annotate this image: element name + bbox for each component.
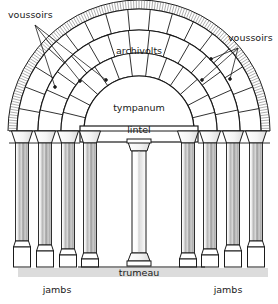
portal-diagram-canvas: voussoirs voussoirs archivolts tympanum … bbox=[0, 0, 278, 304]
portal-diagram: voussoirs voussoirs archivolts tympanum … bbox=[0, 0, 278, 304]
label-voussoirs-left: voussoirs bbox=[8, 9, 53, 20]
column-capital bbox=[223, 131, 244, 143]
column-shaft bbox=[16, 143, 29, 241]
label-tympanum: tympanum bbox=[113, 102, 165, 113]
column-plinth bbox=[180, 259, 197, 267]
column-capital bbox=[200, 131, 221, 143]
column-capital bbox=[178, 131, 199, 143]
column-capital bbox=[246, 131, 267, 143]
column-shaft bbox=[39, 143, 52, 245]
column-shaft bbox=[227, 143, 240, 245]
trumeau-base bbox=[128, 253, 150, 261]
column-capital bbox=[12, 131, 33, 143]
column-plinth bbox=[82, 259, 99, 267]
label-trumeau: trumeau bbox=[119, 267, 160, 278]
column-capital bbox=[58, 131, 79, 143]
column-shaft bbox=[62, 143, 75, 249]
leader-voussoirs-left-dot-2 bbox=[105, 79, 108, 82]
label-jambs-right: jambs bbox=[213, 284, 243, 295]
leader-voussoirs-left-dot-1 bbox=[79, 80, 82, 83]
trumeau-plinth bbox=[127, 261, 151, 266]
column-base-taper bbox=[37, 245, 54, 251]
label-lintel: lintel bbox=[127, 124, 151, 135]
column-base-taper bbox=[60, 249, 77, 255]
column-plinth bbox=[14, 247, 31, 267]
column-plinth bbox=[248, 247, 265, 267]
column-plinth bbox=[37, 251, 54, 267]
column-plinth bbox=[202, 255, 219, 267]
column-base-taper bbox=[225, 245, 242, 251]
label-jambs-left: jambs bbox=[42, 284, 72, 295]
column-plinth bbox=[60, 255, 77, 267]
column-base-taper bbox=[248, 241, 265, 247]
trumeau-abacus bbox=[127, 139, 151, 143]
label-archivolts: archivolts bbox=[116, 45, 162, 56]
leader-voussoirs-right-dot-0 bbox=[210, 58, 213, 61]
column-capital bbox=[80, 131, 101, 143]
leader-voussoirs-left-dot-0 bbox=[54, 86, 57, 89]
leader-voussoirs-right-dot-1 bbox=[201, 79, 204, 82]
column-shaft bbox=[250, 143, 263, 241]
label-voussoirs-right: voussoirs bbox=[228, 32, 273, 43]
column-base-taper bbox=[202, 249, 219, 255]
column-plinth bbox=[225, 251, 242, 267]
column-shaft bbox=[204, 143, 217, 249]
column-base-taper bbox=[82, 253, 99, 259]
leader-voussoirs-right-dot-2 bbox=[229, 78, 232, 81]
column-base-taper bbox=[180, 253, 197, 259]
column-base-taper bbox=[14, 241, 31, 247]
column-shaft bbox=[84, 143, 97, 253]
column-shaft bbox=[182, 143, 195, 253]
column-capital bbox=[35, 131, 56, 143]
